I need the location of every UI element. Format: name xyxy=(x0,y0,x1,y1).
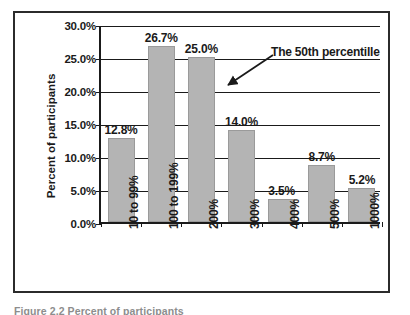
x-axis-tick-label: 1000% xyxy=(368,193,382,229)
y-axis-tick-mark xyxy=(96,59,101,60)
bar-value-label: 12.8% xyxy=(105,123,138,137)
bar-value-label: 8.7% xyxy=(309,150,336,164)
bar-value-label: 26.7% xyxy=(145,31,178,45)
x-axis-tick-mark xyxy=(382,222,383,227)
x-axis-tick-mark xyxy=(221,222,222,227)
y-axis-tick-label: 15.0% xyxy=(64,119,96,131)
x-axis-tick-mark xyxy=(181,222,182,227)
y-axis-tick-label: 25.0% xyxy=(64,53,96,65)
x-axis-tick-mark xyxy=(101,222,102,227)
y-axis-tick-mark xyxy=(96,26,101,27)
gridline xyxy=(101,26,380,27)
x-axis-tick-label: 10 to 99% xyxy=(127,175,141,229)
x-axis-tick-label: 100 to 199% xyxy=(167,162,181,229)
y-axis-tick-label: 10.0% xyxy=(64,152,96,164)
y-axis-tick-mark xyxy=(96,125,101,126)
bar-value-label: 25.0% xyxy=(185,42,218,56)
bar-value-label: 3.5% xyxy=(268,184,295,198)
y-axis-tick-label: 0.0% xyxy=(71,218,96,230)
x-axis-tick-label: 500% xyxy=(328,199,342,229)
y-axis-title: Percent of participants xyxy=(45,37,57,235)
annotation-arrow-icon xyxy=(215,49,285,97)
bar-value-label: 5.2% xyxy=(349,173,376,187)
figure-caption: Figure 2.2 Percent of participants xyxy=(14,305,394,315)
x-axis-tick-mark xyxy=(141,222,142,227)
annotation-label: The 50th percentille xyxy=(271,45,380,59)
x-axis-tick-label: 400% xyxy=(288,199,302,229)
figure-frame: Percent of participants 0.0%5.0%10.0%15.… xyxy=(13,11,390,293)
y-axis-tick-label: 30.0% xyxy=(64,20,96,32)
bar[interactable]: 25.0% xyxy=(188,57,215,222)
bar-value-label: 14.0% xyxy=(225,115,258,129)
y-axis-tick-label: 20.0% xyxy=(64,86,96,98)
y-axis-tick-mark xyxy=(96,191,101,192)
y-axis-tick-mark xyxy=(96,158,101,159)
x-axis-tick-label: 300% xyxy=(248,199,262,229)
y-axis-tick-label: 5.0% xyxy=(71,185,96,197)
y-axis-tick-mark xyxy=(96,92,101,93)
x-axis-tick-label: 200% xyxy=(207,199,221,229)
